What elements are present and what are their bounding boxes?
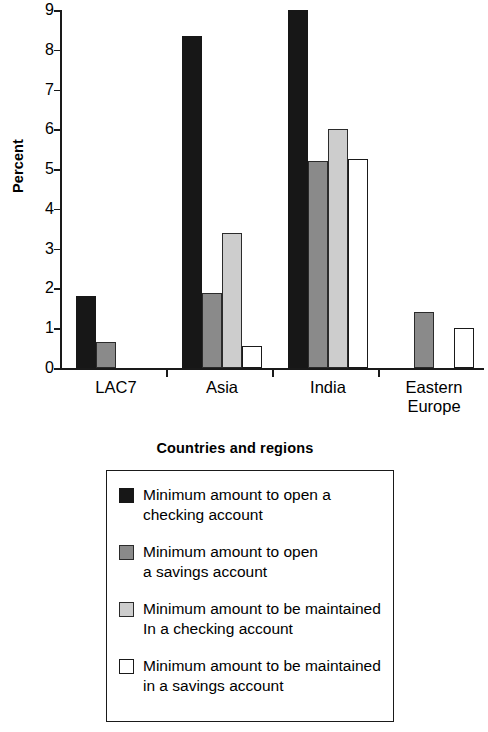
bar [348,159,368,368]
y-tick-label: 4 [10,201,54,217]
y-tick-mark [54,249,61,251]
bar [242,346,262,368]
x-axis-category-labels: LAC7AsiaIndiaEastern Europe [60,378,484,424]
legend-label: Minimum amount to be maintained in a sav… [143,656,381,696]
bar [202,293,222,368]
x-category-label: LAC7 [61,378,171,397]
chart-axes [60,10,480,368]
legend-item: Minimum amount to open a savings account [119,542,393,582]
bar [414,312,434,368]
y-tick-mark [54,129,61,131]
y-tick-mark [54,169,61,171]
y-tick-label: 6 [10,121,54,137]
bar [222,233,242,368]
y-tick-mark [54,209,61,211]
bar-series-container [60,10,484,368]
bar [96,342,116,368]
x-category-label: Eastern Europe [379,378,488,416]
x-axis-title: Countries and regions [0,440,470,456]
x-category-label: India [273,378,383,397]
legend-swatch-ltgray [119,602,134,617]
legend-label: Minimum amount to be maintained In a che… [143,599,381,639]
y-tick-mark [54,10,61,12]
legend-swatch-black [119,488,134,503]
x-tick-mark [378,368,380,377]
y-tick-label: 9 [10,2,54,18]
bar [182,36,202,368]
x-tick-mark [272,368,274,377]
legend-swatch-gray [119,545,134,560]
plot-area: Percent 0123456789 LAC7AsiaIndiaEastern … [0,0,488,390]
legend-label: Minimum amount to open a savings account [143,542,318,582]
bar [288,10,308,368]
y-tick-label: 2 [10,280,54,296]
bar [328,129,348,368]
bar [76,296,96,368]
y-axis-tick-labels: 0123456789 [10,0,54,380]
y-tick-label: 1 [10,320,54,336]
chart-legend: Minimum amount to open a checking accoun… [106,470,394,722]
y-tick-mark [54,328,61,330]
bar [308,161,328,368]
y-tick-label: 5 [10,161,54,177]
legend-item: Minimum amount to open a checking accoun… [119,485,393,525]
y-tick-mark [54,288,61,290]
legend-swatch-white [119,659,134,674]
x-tick-mark [166,368,168,377]
y-tick-mark [54,368,61,370]
y-tick-label: 3 [10,241,54,257]
bar-chart-figure: Percent 0123456789 LAC7AsiaIndiaEastern … [0,0,488,732]
y-tick-mark [54,90,61,92]
y-tick-label: 7 [10,82,54,98]
y-tick-mark [54,50,61,52]
legend-item: Minimum amount to be maintained In a che… [119,599,393,639]
x-category-label: Asia [167,378,277,397]
legend-label: Minimum amount to open a checking accoun… [143,485,331,525]
bar [454,328,474,368]
y-tick-label: 8 [10,42,54,58]
y-tick-label: 0 [10,360,54,376]
legend-item: Minimum amount to be maintained in a sav… [119,656,393,696]
